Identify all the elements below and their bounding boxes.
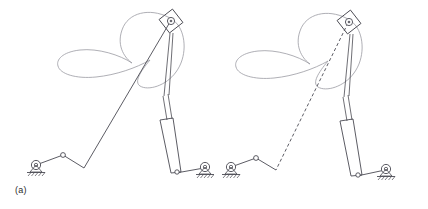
piston-rod-a — [163, 33, 173, 120]
coupler-curve-group-a — [58, 12, 184, 88]
crank-moving-joint — [254, 156, 259, 161]
connecting-rod-line — [84, 22, 170, 168]
piston-rod-upper-extension — [344, 34, 350, 97]
ground-hatching — [223, 175, 240, 179]
crank-coupler-link-line — [63, 155, 84, 168]
vertical-cylinder-a — [160, 118, 181, 173]
cylinder-outer-left-wall — [160, 120, 171, 173]
ground-pivot-right-a — [196, 162, 214, 178]
piston-rod-left — [163, 96, 167, 120]
cylinder-outer-right-wall — [173, 118, 181, 172]
ground-pivot-right-b — [377, 164, 395, 180]
cylinder-outer-left-wall — [340, 121, 351, 176]
ground-hatching — [28, 173, 45, 177]
crank-links-a — [36, 155, 84, 168]
top-pin-joint-inner — [170, 20, 173, 23]
panel-a-canvas — [0, 0, 214, 209]
connecting-rod-line-dashed — [276, 23, 348, 170]
panel-b-canvas — [214, 0, 428, 209]
ground-hatching — [378, 177, 395, 181]
crank-links-b — [231, 158, 276, 170]
panel-a: (a) — [0, 0, 214, 209]
piston-rod-left — [343, 97, 347, 121]
figure-root: (a) — [0, 0, 428, 209]
butterfly-coupler-curve — [236, 13, 362, 89]
crank-coupler-link-line — [256, 158, 276, 170]
connecting-rod-b — [276, 23, 348, 170]
crank-moving-joint — [61, 153, 66, 158]
butterfly-coupler-curve — [58, 12, 184, 88]
piston-rod-upper-extension-2 — [169, 33, 173, 95]
top-pin-joint-inner — [348, 21, 351, 24]
connecting-rod-a — [84, 22, 170, 168]
piston-rod-upper-extension — [164, 33, 170, 96]
slider-base-joint — [175, 170, 179, 174]
panel-caption-a: (a) — [15, 185, 27, 195]
cylinder-outer-right-wall — [353, 119, 362, 175]
piston-rod-right — [348, 95, 352, 120]
vertical-cylinder-b — [340, 119, 362, 176]
piston-rod-b — [343, 34, 353, 121]
slider-base-joint — [356, 173, 360, 177]
ground-hatching — [197, 175, 214, 179]
coupler-curve-group-b — [236, 13, 362, 89]
panel-b: (b) — [214, 0, 428, 209]
piston-rod-upper-extension-2 — [349, 34, 353, 96]
piston-rod-right — [168, 94, 172, 119]
